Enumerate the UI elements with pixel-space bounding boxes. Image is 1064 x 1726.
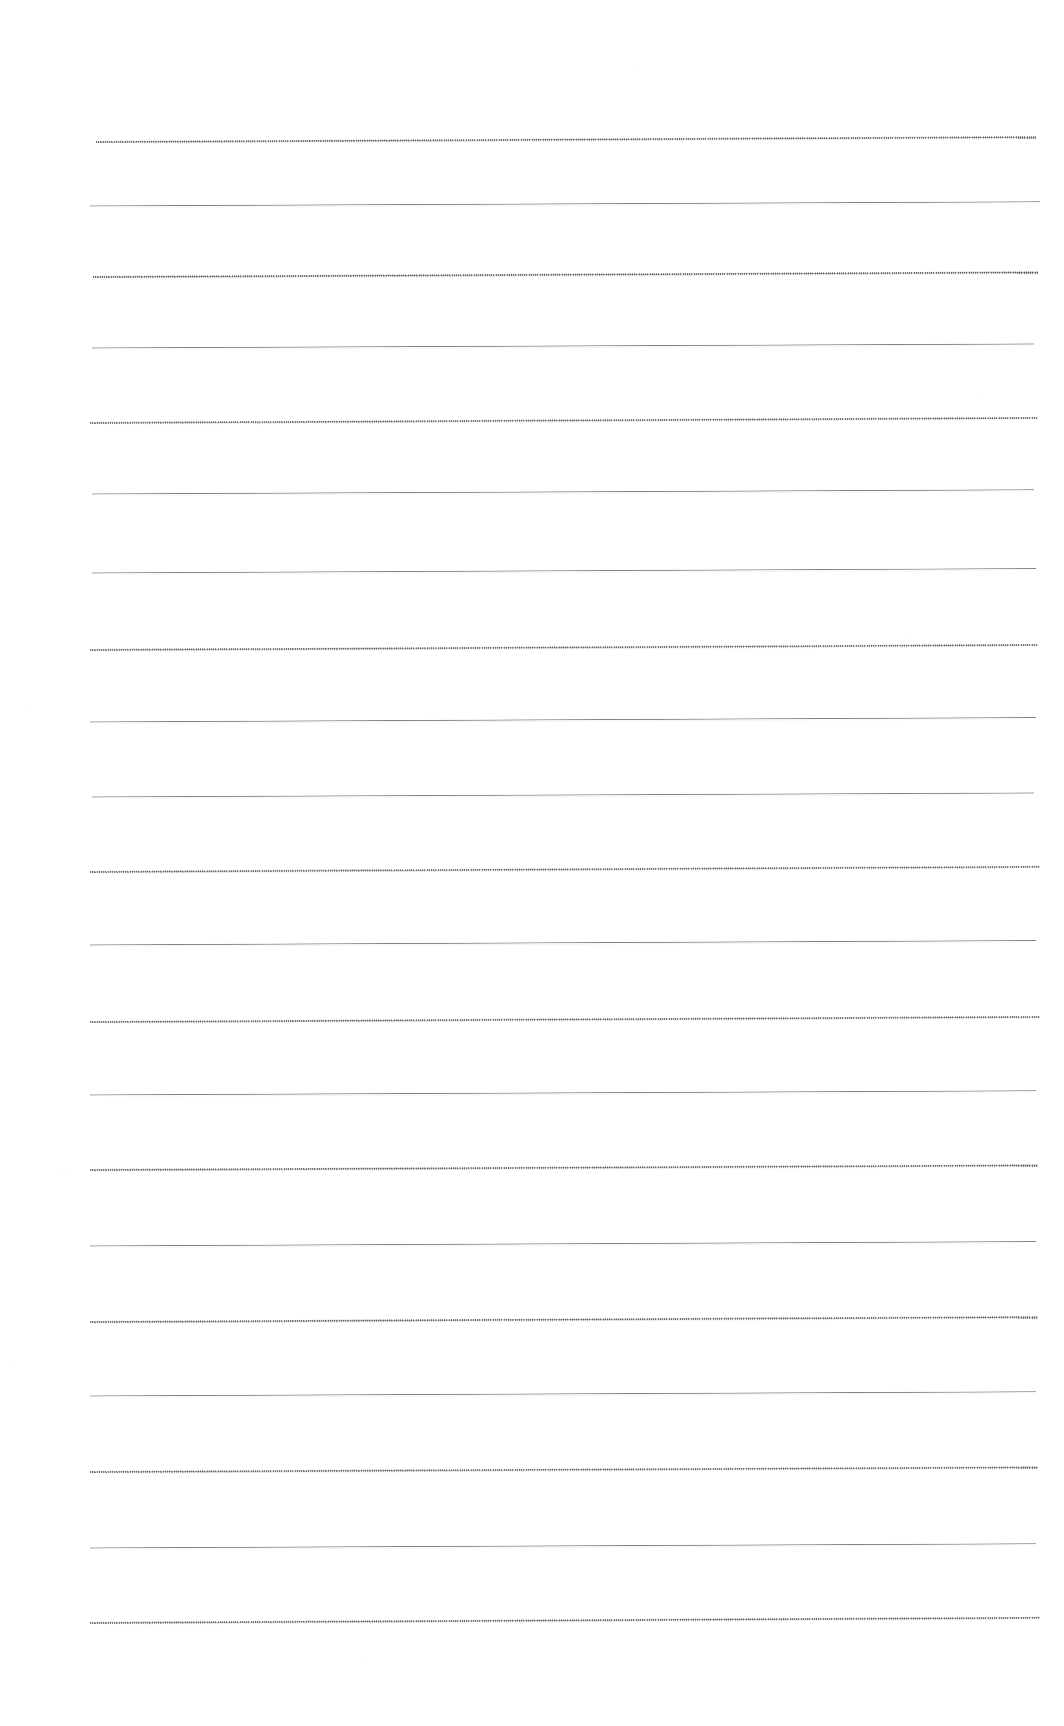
ruled-line-ghost: [90, 868, 1040, 874]
ruled-line-stroke: [92, 568, 1036, 574]
ruled-line-ghost: [90, 719, 1036, 724]
ruled-line: [0, 205, 1064, 209]
ruled-line: [0, 1321, 1064, 1325]
ruled-line-ghost: [90, 1318, 1038, 1324]
ruled-line-stroke: [90, 1241, 1036, 1247]
ruled-line: [0, 572, 1064, 576]
ruled-line-ghost: [90, 1393, 1036, 1398]
ruled-line-stroke: [92, 343, 1034, 349]
ruled-line: [0, 347, 1064, 351]
ruled-line: [0, 276, 1064, 280]
ruled-line-ghost: [93, 273, 1038, 279]
ruled-line-stroke: [92, 792, 1034, 798]
ruled-line-stroke: [90, 1016, 1040, 1023]
ruled-line: [0, 1245, 1064, 1249]
ruled-line-ghost: [90, 203, 1040, 208]
ruled-line-stroke: [90, 644, 1038, 651]
ruled-line: [0, 1547, 1064, 1551]
ruled-line: [0, 141, 1064, 145]
paper-texture-speckle: [0, 0, 1064, 1726]
ruled-line-stroke: [90, 417, 1038, 424]
ruled-line-ghost: [90, 1166, 1038, 1172]
ruled-line-ghost: [92, 345, 1034, 350]
ruled-line-stroke: [90, 1617, 1040, 1624]
ruled-line-stroke: [90, 1391, 1036, 1397]
ruled-line: [0, 1395, 1064, 1399]
ruled-line-stroke: [96, 136, 1036, 143]
ruled-line: [0, 649, 1064, 653]
ruled-line: [0, 721, 1064, 725]
ruled-line: [0, 1471, 1064, 1475]
ruled-line-stroke: [92, 489, 1034, 495]
ruled-line: [0, 493, 1064, 497]
ruled-line-ghost: [90, 1468, 1038, 1474]
ruled-line-stroke: [90, 866, 1040, 873]
ruled-line-ghost: [96, 138, 1036, 144]
ruled-line-stroke: [90, 940, 1036, 946]
ruled-line: [0, 796, 1064, 800]
ruled-line-ghost: [90, 419, 1038, 425]
ruled-line-ghost: [92, 491, 1034, 496]
ruled-line-stroke: [90, 1164, 1038, 1171]
ruled-line-ghost: [92, 570, 1036, 575]
ruled-line-stroke: [90, 1543, 1036, 1549]
ruled-line-stroke: [90, 1466, 1038, 1473]
ruled-line-ghost: [90, 1092, 1036, 1097]
ruled-line-ghost: [90, 1243, 1036, 1248]
ruled-line: [0, 1021, 1064, 1025]
lined-paper-page: [0, 0, 1064, 1726]
ruled-line-stroke: [90, 1316, 1038, 1323]
paper-surface: [0, 0, 1064, 1726]
ruled-line: [0, 1094, 1064, 1098]
ruled-line-ghost: [90, 1619, 1040, 1625]
ruled-line-stroke: [93, 271, 1038, 278]
ruled-line-ghost: [90, 942, 1036, 947]
ruled-line-ghost: [90, 1018, 1040, 1024]
ruled-line: [0, 944, 1064, 948]
ruled-line: [0, 871, 1064, 875]
ruled-line-stroke: [90, 1090, 1036, 1096]
ruled-line-ghost: [92, 794, 1034, 799]
ruled-line: [0, 422, 1064, 426]
ruled-line: [0, 1169, 1064, 1173]
ruled-line-ghost: [90, 646, 1038, 652]
ruled-line: [0, 1622, 1064, 1626]
ruled-line-stroke: [90, 201, 1040, 207]
ruled-line-stroke: [90, 717, 1036, 723]
ruled-line-ghost: [90, 1545, 1036, 1550]
